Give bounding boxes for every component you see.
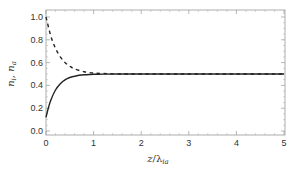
series-n-a-dashed — [46, 17, 284, 74]
x-tick-label: 0 — [43, 138, 48, 148]
axis-ticks — [46, 10, 285, 135]
data-series — [46, 17, 284, 117]
y-tick-label: 1.0 — [30, 12, 43, 22]
y-tick-label: 0.0 — [30, 126, 43, 136]
y-tick-label: 0.8 — [30, 35, 43, 45]
y-tick-label: 0.6 — [30, 58, 43, 68]
x-axis-label: z/λia — [146, 153, 168, 166]
chart: 0123450.00.20.40.60.81.0 z/λia ni, na — [0, 0, 302, 174]
plot-frame — [46, 10, 285, 135]
series-n-i-solid — [46, 74, 284, 117]
y-tick-label: 0.4 — [30, 80, 43, 90]
x-tick-label: 2 — [139, 138, 144, 148]
x-tick-label: 1 — [91, 138, 96, 148]
y-tick-label: 0.2 — [30, 103, 43, 113]
x-tick-label: 3 — [186, 138, 191, 148]
y-axis-label: ni, na — [5, 61, 18, 87]
x-tick-label: 4 — [234, 138, 239, 148]
tick-labels: 0123450.00.20.40.60.81.0 — [30, 12, 286, 148]
x-tick-label: 5 — [281, 138, 286, 148]
